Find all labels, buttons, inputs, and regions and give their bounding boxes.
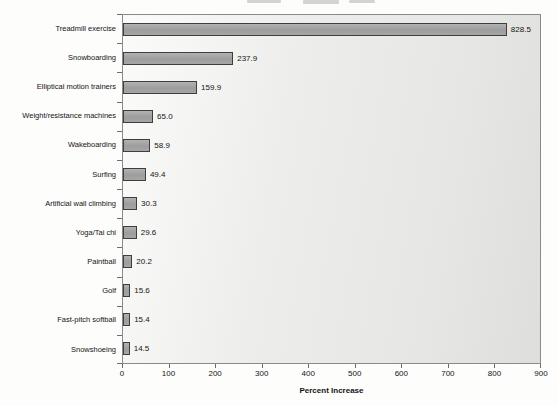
bar-value-label: 58.9 xyxy=(154,142,170,150)
x-axis-tick-label: 300 xyxy=(255,370,268,378)
bar xyxy=(123,342,130,355)
bar-value-label: 30.3 xyxy=(141,200,157,208)
x-axis-ticks xyxy=(122,364,541,368)
bar xyxy=(123,81,197,94)
x-axis-tick-labels: 0100200300400500600700800900 xyxy=(122,370,541,380)
x-axis-tick-label: 100 xyxy=(162,370,175,378)
bar xyxy=(123,23,507,36)
cropped-title-mark xyxy=(247,0,281,3)
bar-value-label: 49.4 xyxy=(150,171,166,179)
x-axis-tick-label: 0 xyxy=(120,370,124,378)
x-axis-tick xyxy=(355,364,356,368)
x-axis-tick xyxy=(401,364,402,368)
cropped-title-fragment xyxy=(0,0,558,5)
category-label: Treadmill exercise xyxy=(0,14,116,43)
category-label: Yoga/Tai chi xyxy=(0,218,116,247)
bar-row: 65.0 xyxy=(123,102,540,131)
x-axis-tick xyxy=(540,364,541,368)
category-label: Surfing xyxy=(0,160,116,189)
bar xyxy=(123,197,137,210)
bar xyxy=(123,110,153,123)
bar-value-label: 15.4 xyxy=(134,316,150,324)
category-label: Wakeboarding xyxy=(0,131,116,160)
bar-row: 20.2 xyxy=(123,247,540,276)
bar xyxy=(123,52,233,65)
bar-row: 159.9 xyxy=(123,73,540,102)
bar-value-label: 15.6 xyxy=(134,287,150,295)
x-axis-tick-label: 200 xyxy=(208,370,221,378)
bar-row: 29.6 xyxy=(123,218,540,247)
bar-row: 15.4 xyxy=(123,305,540,334)
bar-row: 14.5 xyxy=(123,334,540,363)
bar-value-label: 65.0 xyxy=(157,113,173,121)
chart-figure: Treadmill exerciseSnowboardingElliptical… xyxy=(0,0,558,406)
bar-value-label: 29.6 xyxy=(141,229,157,237)
bar-row: 58.9 xyxy=(123,131,540,160)
category-label: Snowshoeing xyxy=(0,335,116,364)
bar-row: 30.3 xyxy=(123,189,540,218)
bar xyxy=(123,168,146,181)
bar-value-label: 159.9 xyxy=(201,84,221,92)
bar xyxy=(123,226,137,239)
category-label: Golf xyxy=(0,277,116,306)
bar-row: 237.9 xyxy=(123,44,540,73)
bar-row: 49.4 xyxy=(123,160,540,189)
x-axis-title: Percent Increase xyxy=(122,386,541,395)
x-axis-tick xyxy=(448,364,449,368)
plot-area: 828.5237.9159.965.058.949.430.329.620.21… xyxy=(122,14,541,364)
category-labels: Treadmill exerciseSnowboardingElliptical… xyxy=(0,14,116,364)
x-axis-tick-label: 400 xyxy=(302,370,315,378)
x-axis-tick-label: 800 xyxy=(488,370,501,378)
category-label: Fast-pitch softball xyxy=(0,306,116,335)
bar-value-label: 14.5 xyxy=(134,345,150,353)
x-axis-tick-label: 700 xyxy=(441,370,454,378)
x-axis-tick-label: 500 xyxy=(348,370,361,378)
x-axis-tick xyxy=(122,364,123,368)
bar xyxy=(123,255,132,268)
bar xyxy=(123,313,130,326)
bar-value-label: 20.2 xyxy=(136,258,152,266)
x-axis-tick xyxy=(494,364,495,368)
x-axis-tick xyxy=(169,364,170,368)
x-axis-tick xyxy=(262,364,263,368)
bar-value-label: 237.9 xyxy=(237,55,257,63)
category-label: Snowboarding xyxy=(0,43,116,72)
x-axis-tick xyxy=(308,364,309,368)
x-axis-tick-label: 900 xyxy=(534,370,547,378)
category-label: Weight/resistance machines xyxy=(0,102,116,131)
cropped-title-mark xyxy=(303,0,339,4)
x-axis-tick xyxy=(215,364,216,368)
category-label: Artificial wall climbing xyxy=(0,189,116,218)
x-axis-tick-label: 600 xyxy=(395,370,408,378)
bar xyxy=(123,284,130,297)
bar-row: 828.5 xyxy=(123,15,540,44)
bar xyxy=(123,139,150,152)
category-label: Paintball xyxy=(0,247,116,276)
cropped-title-mark xyxy=(349,0,375,3)
bar-row: 15.6 xyxy=(123,276,540,305)
bar-value-label: 828.5 xyxy=(511,26,531,34)
category-label: Elliptical motion trainers xyxy=(0,72,116,101)
